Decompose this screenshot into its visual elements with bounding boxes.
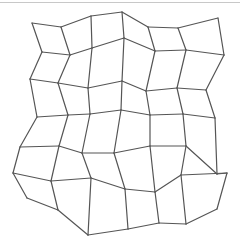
mesh-edge-vertical xyxy=(155,192,159,223)
mesh-edge-vertical xyxy=(61,27,70,55)
mesh-edge-horizontal xyxy=(124,38,155,51)
mesh-edge-vertical xyxy=(121,81,122,110)
mesh-edge-horizontal xyxy=(114,146,150,153)
mesh-edge-horizontal xyxy=(90,110,121,114)
mesh-edge-vertical xyxy=(51,181,58,210)
mesh-edge-vertical xyxy=(88,178,91,235)
mesh-edge-horizontal xyxy=(121,110,150,115)
mesh-edge-horizontal xyxy=(183,114,215,118)
mesh-edge-vertical xyxy=(146,51,155,91)
mesh-edge-vertical xyxy=(88,88,90,114)
mesh-edge-horizontal xyxy=(88,81,122,88)
mesh-edge-vertical xyxy=(88,48,92,88)
mesh-edge-horizontal xyxy=(122,12,148,27)
mesh-edge-horizontal xyxy=(91,178,125,189)
mesh-edge-horizontal xyxy=(178,18,218,28)
mesh-edge-vertical xyxy=(58,55,70,83)
mesh-edge-horizontal xyxy=(186,146,217,174)
mesh-edge-vertical xyxy=(181,146,186,175)
mesh-edge-vertical xyxy=(114,153,125,189)
mesh-edge-horizontal xyxy=(59,146,82,153)
mesh-edge-vertical xyxy=(217,173,227,209)
mesh-edge-horizontal xyxy=(20,146,59,147)
mesh-edge-vertical xyxy=(181,175,186,224)
mesh-edge-horizontal xyxy=(27,198,58,210)
mesh-edge-vertical xyxy=(30,52,42,79)
mesh-edge-vertical xyxy=(125,189,128,229)
mesh-edge-vertical xyxy=(206,90,215,118)
mesh-edge-horizontal xyxy=(155,50,186,51)
mesh-edge-horizontal xyxy=(186,50,224,55)
mesh-edge-vertical xyxy=(13,147,20,173)
mesh-edge-vertical xyxy=(215,118,217,174)
mesh-edge-vertical xyxy=(32,23,42,52)
mesh-edge-horizontal xyxy=(186,209,217,224)
mesh-edge-vertical xyxy=(51,146,59,181)
mesh-edge-vertical xyxy=(20,117,37,147)
mesh-edge-horizontal xyxy=(51,178,91,181)
mesh-edge-horizontal xyxy=(128,223,159,229)
mesh-edge-vertical xyxy=(150,146,155,192)
mesh-edge-vertical xyxy=(122,12,124,38)
mesh-edge-vertical xyxy=(148,27,155,51)
mesh-edge-vertical xyxy=(58,83,68,115)
mesh-edge-horizontal xyxy=(30,79,58,83)
warped-grid-mesh xyxy=(0,0,240,244)
mesh-edge-horizontal xyxy=(61,16,91,27)
mesh-edge-vertical xyxy=(82,153,91,178)
mesh-edge-horizontal xyxy=(146,88,177,91)
mesh-edge-horizontal xyxy=(70,48,92,55)
mesh-edge-vertical xyxy=(177,50,186,88)
mesh-edge-horizontal xyxy=(88,229,128,235)
mesh-edge-horizontal xyxy=(155,175,181,192)
mesh-edge-vertical xyxy=(177,88,183,114)
mesh-edge-vertical xyxy=(218,18,224,55)
mesh-edge-horizontal xyxy=(32,23,61,27)
mesh-edge-horizontal xyxy=(91,12,122,16)
mesh-edge-horizontal xyxy=(58,210,88,235)
mesh-edge-horizontal xyxy=(159,223,186,224)
mesh-edge-horizontal xyxy=(148,27,178,28)
mesh-edge-vertical xyxy=(122,38,124,81)
mesh-edge-horizontal xyxy=(150,114,183,115)
mesh-edge-horizontal xyxy=(177,88,206,90)
mesh-edge-vertical xyxy=(30,79,37,117)
mesh-edge-vertical xyxy=(178,28,186,50)
mesh-edge-vertical xyxy=(183,114,186,146)
mesh-edge-vertical xyxy=(13,173,27,198)
mesh-edge-vertical xyxy=(82,114,90,153)
mesh-edge-horizontal xyxy=(58,83,88,88)
mesh-edge-vertical xyxy=(59,115,68,146)
mesh-edge-vertical xyxy=(91,16,92,48)
mesh-edge-horizontal xyxy=(122,81,146,91)
mesh-edge-vertical xyxy=(114,110,121,153)
mesh-edge-horizontal xyxy=(125,189,155,192)
mesh-edge-vertical xyxy=(206,55,224,90)
mesh-edge-horizontal xyxy=(13,173,51,181)
mesh-edge-horizontal xyxy=(42,52,70,55)
mesh-edge-horizontal xyxy=(68,114,90,115)
mesh-edge-horizontal xyxy=(37,115,68,117)
mesh-edge-horizontal xyxy=(92,38,124,48)
mesh-edge-vertical xyxy=(146,91,150,115)
